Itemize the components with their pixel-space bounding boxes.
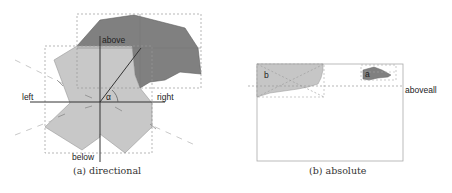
label-aboveall: aboveall <box>405 85 437 95</box>
label-right: right <box>157 92 174 102</box>
label-above: above <box>102 35 125 45</box>
label-a: a <box>365 69 370 79</box>
label-left: left <box>22 92 34 102</box>
label-b: b <box>264 70 269 80</box>
caption-directional: (a) directional <box>73 165 141 176</box>
panel-absolute: b a aboveall (b) absolute <box>226 0 452 193</box>
label-below: below <box>72 152 95 162</box>
caption-absolute: (b) absolute <box>309 165 366 176</box>
label-angle: α <box>106 92 111 102</box>
panel-directional: above left right below α (a) directional <box>0 0 226 193</box>
